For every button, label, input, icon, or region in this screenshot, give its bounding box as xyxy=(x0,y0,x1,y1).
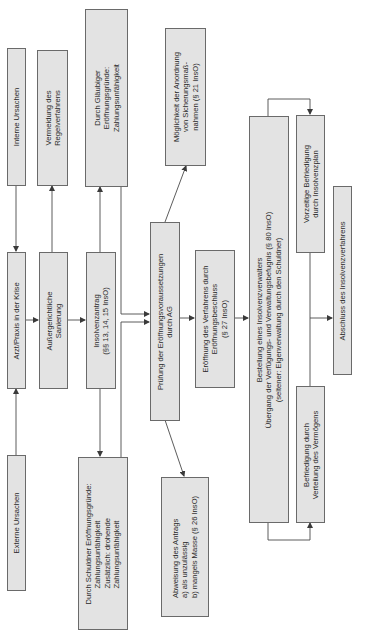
node-aussergerichtliche-sanierung: Außergerichtliche Sanierung xyxy=(39,252,68,389)
node-text: durch Insolvenzplan xyxy=(311,145,320,223)
node-text: Externe Ursachen xyxy=(12,493,21,554)
node-text: Sanierung xyxy=(54,291,63,350)
node-text: (seltener: Eigenverwaltung durch den Sch… xyxy=(274,211,283,428)
node-text: Insolvenzantrag xyxy=(92,287,101,355)
node-text: Zahlungsunfähigkeit xyxy=(94,483,103,604)
edge-pruefung-abweisung xyxy=(165,420,184,476)
node-abschluss-insolvenzverfahren: Abschluss des Insolvenzverfahrens xyxy=(333,186,352,375)
node-text: Arzt/Praxis in der Krise xyxy=(12,282,21,359)
node-arzt-praxis-krise: Arzt/Praxis in der Krise xyxy=(7,252,26,389)
node-text: Verteilung des Vermögens xyxy=(311,410,320,499)
node-text: Übergang der Verfügungs- und Verwaltungs… xyxy=(264,211,273,428)
insolvency-process-diagram: Interne Ursachen Arzt/Praxis in der Kris… xyxy=(0,0,371,630)
node-text: Befriedigung durch xyxy=(301,410,310,499)
node-text: Zahlungsunfähigkeit xyxy=(111,64,120,132)
node-text: Bestellung eines Insolvenzverwalters xyxy=(255,211,264,428)
node-text: Abweisung des Antrags xyxy=(171,496,180,598)
node-text: Abschluss des Insolvenzverfahrens xyxy=(338,221,347,340)
node-text: Durch Gläubiger xyxy=(92,64,101,132)
node-text: nahmen (§ 21 InsO) xyxy=(190,52,199,142)
node-befriedigung-verteilung: Befriedigung durch Verteilung des Vermög… xyxy=(296,386,325,523)
node-glaeubiger-eroeffnungsgruende: Durch Gläubiger Eröffnungsgründe: Zahlun… xyxy=(85,9,128,187)
node-interne-ursachen: Interne Ursachen xyxy=(7,48,26,186)
node-text: a) als unzulässig xyxy=(180,496,189,598)
node-insolvenzantrag: Insolvenzantrag (§§ 13, 14, 15 InsO) xyxy=(86,252,116,389)
node-abweisung-antrag: Abweisung des Antrags a) als unzulässig … xyxy=(161,477,209,617)
node-pruefung-eroeffnungsvoraussetzungen: Prüfung der Eröffnungsvoraussetzungen du… xyxy=(150,222,180,421)
node-text: Vermeidung des xyxy=(43,90,52,146)
node-text: von Sicherungsmaß- xyxy=(181,52,190,142)
node-text: Eröffnungsbeschluss xyxy=(210,265,219,372)
node-text: b) mangels Masse (§ 26 InsO) xyxy=(190,496,199,598)
node-text: Zusätzlich: drohende xyxy=(103,483,112,604)
node-text: (§ 27 InsO) xyxy=(220,265,229,372)
node-text: Außergerichtliche xyxy=(44,291,53,350)
edge-glaeubiger-pruefung xyxy=(121,186,149,314)
node-externe-ursachen: Externe Ursachen xyxy=(7,455,26,591)
node-text: (§§ 13, 14, 15 InsO) xyxy=(101,287,110,355)
edge-pruefung-sicherung xyxy=(165,166,186,222)
node-schuldner-eroeffnungsgruende: Durch Schuldner Eröffnungsgründe: Zahlun… xyxy=(78,457,128,630)
node-sicherungsmassnahmen: Möglichkeit der Anordnung von Sicherungs… xyxy=(165,28,206,166)
node-text: Eröffnung des Verfahrens durch xyxy=(201,265,210,372)
node-text: Eröffnungsgründe: xyxy=(102,64,111,132)
edge-bestellung-verteilung xyxy=(268,522,310,540)
node-text: Interne Ursachen xyxy=(12,88,21,146)
node-text: Prüfung der Eröffnungsvoraussetzungen xyxy=(156,253,165,389)
node-text: Möglichkeit der Anordnung xyxy=(171,52,180,142)
node-vorzeitige-befriedigung: Vorzeitige Befriedigung durch Insolvenzp… xyxy=(296,115,325,253)
node-text: Zahlungsunfähigkeit xyxy=(112,483,121,604)
node-text: durch AG xyxy=(165,253,174,389)
edge-schuldner-pruefung xyxy=(121,322,149,457)
node-vermeidung-regelverfahren: Vermeidung des Regelverfahrens xyxy=(37,50,68,186)
node-text: Vorzeitige Befriedigung xyxy=(301,145,310,223)
node-text: Regelverfahrens xyxy=(53,90,62,146)
node-eroeffnung-verfahren: Eröffnung des Verfahrens durch Eröffnung… xyxy=(195,250,235,388)
node-text: Durch Schuldner Eröffnungsgründe: xyxy=(84,483,93,604)
node-bestellung-insolvenzverwalter: Bestellung eines Insolvenzverwalters Übe… xyxy=(249,116,289,523)
edge-bestellung-vorzeitig xyxy=(268,99,310,116)
